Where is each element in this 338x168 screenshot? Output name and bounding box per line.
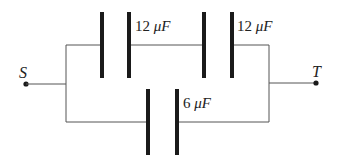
capacitor-c1-unit: μF	[153, 18, 172, 34]
circuit-diagram: S 12 μF 12 μF 6 μF T	[0, 0, 338, 168]
terminal-s: S	[19, 64, 29, 87]
capacitor-c3-label: 6 μF	[183, 95, 212, 111]
terminal-s-label: S	[19, 64, 27, 81]
terminal-t: T	[312, 63, 322, 86]
capacitor-c1-value: 12	[135, 18, 150, 34]
capacitor-c2-unit: μF	[255, 18, 274, 34]
terminal-t-label: T	[312, 63, 322, 80]
terminal-t-dot	[313, 80, 318, 85]
capacitor-c1-label: 12 μF	[135, 18, 171, 34]
wires	[26, 45, 316, 122]
capacitor-c2-value: 12	[237, 18, 252, 34]
capacitor-c2-label: 12 μF	[237, 18, 273, 34]
capacitor-c3-unit: μF	[193, 95, 212, 111]
